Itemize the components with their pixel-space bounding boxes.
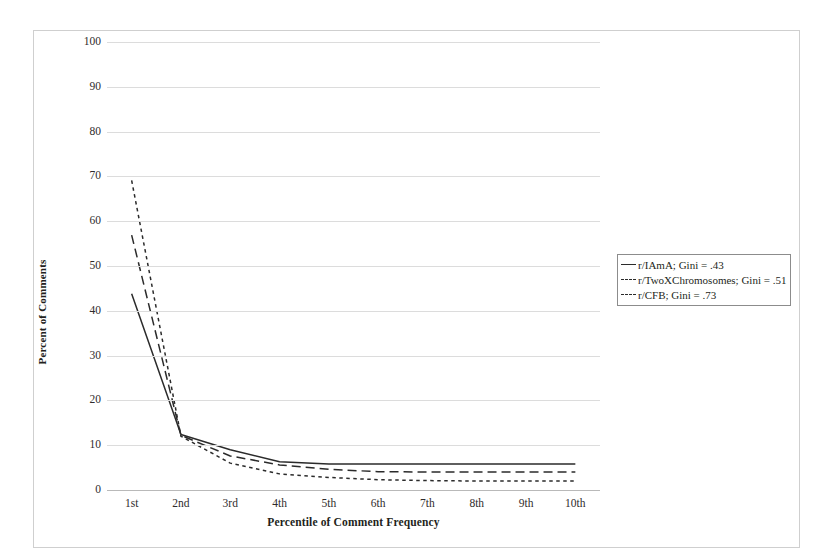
x-axis-tick-label: 8th (450, 497, 504, 510)
gridline (107, 176, 600, 177)
gridline (107, 87, 600, 88)
y-axis-title-text: Percent of Comments (36, 222, 48, 402)
x-axis-tick-label: 6th (351, 497, 405, 510)
x-axis-tick-label: 3rd (203, 497, 257, 510)
gridline (107, 400, 600, 401)
gridline (107, 445, 600, 446)
y-axis-title: Percent of Comments (36, 42, 50, 222)
y-axis-tick-label: 0 (61, 484, 101, 496)
y-axis-tick-label: 10 (61, 439, 101, 451)
legend-item-label: r/TwoXChromosomes; Gini = .51 (638, 274, 786, 286)
legend-line-swatch-icon (621, 260, 636, 270)
x-axis-tick-labels: 1st2nd3rd4th5th6th7th8th9th10th (107, 497, 600, 513)
x-axis-tick-label: 10th (548, 497, 602, 510)
legend-item: r/TwoXChromosomes; Gini = .51 (621, 272, 786, 287)
y-axis-tick-label: 90 (61, 81, 101, 93)
x-axis-tick-label: 1st (105, 497, 159, 510)
gridline (107, 356, 600, 357)
legend-line-swatch-icon (621, 290, 636, 300)
x-axis-tick-label: 2nd (154, 497, 208, 510)
x-axis-tick-label: 5th (302, 497, 356, 510)
legend-item-label: r/CFB; Gini = .73 (638, 289, 716, 301)
legend-item-label: r/IAmA; Gini = .43 (638, 259, 724, 271)
series-line (132, 294, 576, 464)
gridline (107, 42, 600, 43)
y-axis-tick-label: 30 (61, 350, 101, 362)
gridline (107, 266, 600, 267)
y-axis-tick-label: 80 (61, 126, 101, 138)
y-axis-tick-label: 20 (61, 394, 101, 406)
y-axis-tick-label: 100 (61, 36, 101, 48)
legend: r/IAmA; Gini = .43r/TwoXChromosomes; Gin… (617, 254, 791, 306)
x-axis-tick-label: 7th (400, 497, 454, 510)
gridline (107, 311, 600, 312)
legend-item: r/IAmA; Gini = .43 (621, 257, 786, 272)
gridline (107, 132, 600, 133)
y-axis-tick-labels: 1009080706050403020100 (57, 42, 101, 490)
gridline (107, 490, 600, 491)
legend-item: r/CFB; Gini = .73 (621, 287, 786, 302)
x-axis-title: Percentile of Comment Frequency (107, 516, 600, 528)
y-axis-tick-label: 60 (61, 215, 101, 227)
x-axis-tick-label: 4th (253, 497, 307, 510)
legend-line-swatch-icon (621, 275, 636, 285)
gridline (107, 221, 600, 222)
series-line (132, 180, 576, 481)
plot-area (107, 42, 600, 490)
y-axis-tick-label: 40 (61, 305, 101, 317)
x-axis-tick-label: 9th (499, 497, 553, 510)
y-axis-tick-label: 50 (61, 260, 101, 272)
y-axis-tick-label: 70 (61, 170, 101, 182)
series-line (132, 235, 576, 472)
chart-figure: 1009080706050403020100 Percent of Commen… (0, 0, 838, 554)
